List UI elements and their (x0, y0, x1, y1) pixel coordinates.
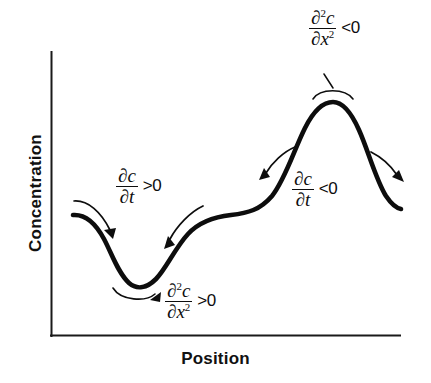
flow-arrow-into-valley-left (74, 201, 116, 239)
peak-curvature-fraction: ∂2c ∂x2 (309, 8, 336, 49)
valley-curvature-numerator: ∂2c (165, 281, 192, 302)
valley-rate-relation: >0 (143, 176, 161, 196)
valley-rate-fraction: ∂c ∂t (116, 166, 138, 207)
valley-rate-numerator: ∂c (116, 166, 138, 187)
valley-curvature-arc (113, 288, 155, 299)
peak-curvature-arc (313, 91, 353, 99)
peak-rate-fraction: ∂c ∂t (292, 169, 314, 210)
annotation-peak-curvature: ∂2c ∂x2 <0 (309, 8, 360, 49)
peak-curvature-numerator: ∂2c (309, 8, 336, 29)
peak-curvature-relation: <0 (341, 18, 359, 38)
annotation-valley-curvature: ∂2c ∂x2 >0 (165, 281, 216, 322)
peak-rate-relation: <0 (319, 179, 337, 199)
peak-curvature-denominator: ∂x2 (309, 29, 336, 49)
valley-curvature-relation: >0 (197, 291, 215, 311)
annotation-peak-rate: ∂c ∂t <0 (292, 169, 337, 210)
peak-rate-denominator: ∂t (294, 190, 313, 210)
peak-rate-numerator: ∂c (292, 169, 314, 190)
annotation-valley-rate: ∂c ∂t >0 (116, 166, 161, 207)
x-axis-label: Position (0, 349, 431, 369)
y-axis-label: Concentration (26, 83, 46, 303)
valley-curvature-fraction: ∂2c ∂x2 (165, 281, 192, 322)
valley-curvature-denominator: ∂x2 (165, 302, 192, 322)
flow-arrow-into-valley-right-head (164, 236, 175, 249)
peak-curvature-marker (313, 74, 353, 99)
valley-rate-denominator: ∂t (118, 187, 137, 207)
peak-curvature-leader (324, 74, 333, 88)
flow-arrow-into-valley-left-head (104, 228, 116, 239)
diffusion-profile-figure (0, 0, 431, 383)
valley-curvature-marker (113, 288, 161, 302)
